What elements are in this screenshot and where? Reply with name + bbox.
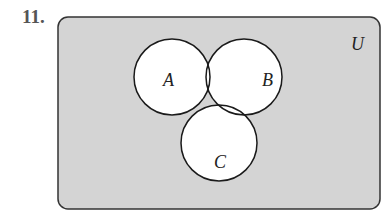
venn-diagram: A B C U [0,0,386,217]
set-label-a: A [162,70,175,90]
set-label-b: B [262,70,273,90]
set-label-c: C [214,152,227,172]
universe-label: U [351,34,365,54]
